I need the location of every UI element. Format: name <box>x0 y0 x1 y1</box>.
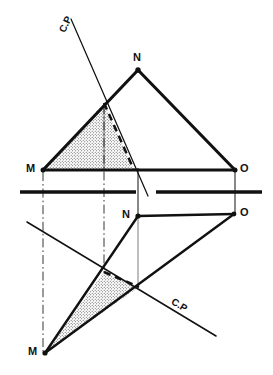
vertex-label-N-top: N <box>122 209 130 220</box>
top-view-group <box>27 212 236 356</box>
vertex-label-O-top: O <box>240 207 249 218</box>
vertex-label-N-front: N <box>133 52 141 63</box>
vertex-dot-M-front <box>41 168 46 173</box>
vertex-label-O-front: O <box>240 163 249 174</box>
vertex-label-M-top: M <box>28 346 37 357</box>
drawing-sheet: M N O C.P M N O C.P <box>0 0 273 375</box>
vertex-dot-N-front <box>135 67 140 72</box>
front-view-group <box>41 19 238 196</box>
edge-NO-front <box>138 70 235 170</box>
vertex-dot-N-top <box>135 213 140 218</box>
vertex-dot-O-top <box>232 212 237 217</box>
edge-NO-top <box>138 214 234 216</box>
vertex-label-M-front: M <box>26 163 35 174</box>
edge-MO-top <box>45 214 234 353</box>
vertex-dot-M-top <box>42 350 47 355</box>
